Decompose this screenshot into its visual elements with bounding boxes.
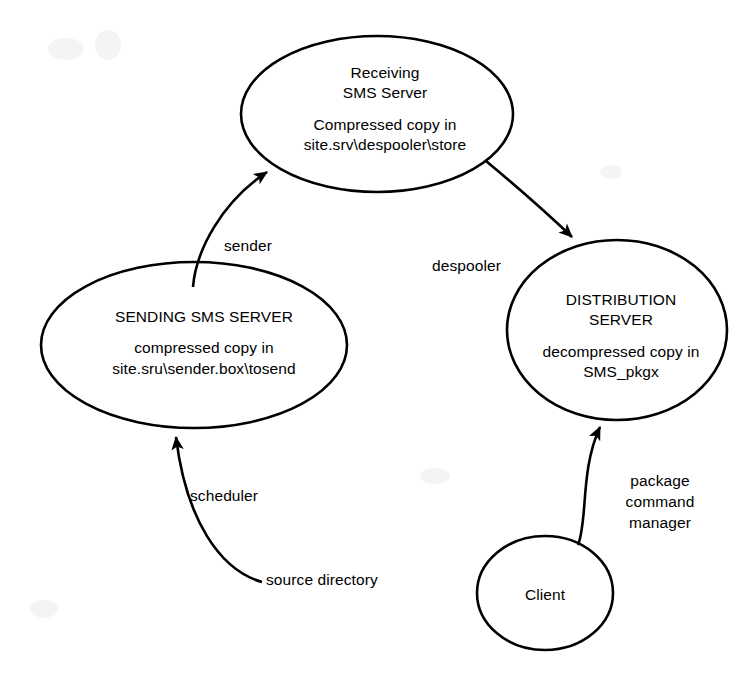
source-directory-label-text: source directory	[266, 571, 378, 588]
scheduler-label-text: scheduler	[190, 487, 258, 504]
despooler-label-text: despooler	[432, 257, 501, 274]
diagram-canvas: Receiving SMS Server Compressed copy in …	[0, 0, 754, 684]
sender-label-text: sender	[224, 237, 272, 254]
node-distribution-server[interactable]	[507, 240, 727, 420]
edge-package-command-manager[interactable]	[578, 427, 600, 545]
edge-label-despooler: despooler	[432, 256, 501, 277]
edge-scheduler[interactable]	[176, 437, 262, 582]
package-label-text: package	[630, 472, 689, 489]
node-client[interactable]	[477, 536, 613, 650]
edge-label-package-command-manager: package command manager	[608, 471, 712, 534]
edge-label-source-directory: source directory	[266, 570, 378, 591]
command-label-text: command	[626, 493, 695, 510]
edge-label-sender: sender	[224, 236, 272, 257]
edge-label-scheduler: scheduler	[190, 486, 258, 507]
edge-despooler[interactable]	[486, 161, 572, 237]
manager-label-text: manager	[629, 514, 691, 531]
node-receiving-sms-server[interactable]	[241, 36, 513, 192]
